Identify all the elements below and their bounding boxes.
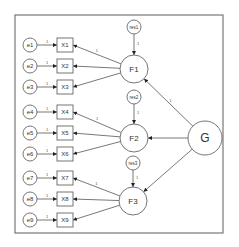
path-label: 1	[137, 110, 140, 115]
error-label: e7	[27, 175, 34, 181]
general-loading-path	[144, 149, 193, 192]
loading-path	[73, 112, 121, 133]
error-label: e1	[27, 42, 34, 48]
path-label: 1	[46, 60, 49, 65]
factor-label: F3	[128, 197, 138, 206]
path-label: 1	[46, 106, 49, 111]
path-label: 1	[137, 41, 140, 46]
error-label: e3	[27, 84, 34, 90]
error-label: e4	[27, 109, 34, 115]
factor-label: F1	[129, 65, 139, 74]
residual-label: res3	[129, 161, 138, 166]
indicator-label: X9	[61, 217, 69, 223]
error-label: e9	[27, 217, 34, 223]
path-label: 1	[46, 172, 49, 177]
loading-path	[73, 205, 120, 220]
loading-path	[73, 142, 120, 154]
indicator-label: X5	[61, 130, 69, 136]
sem-diagram: 1111111111111111 e1X1e2X2e3X3e4X4e5X5e6X…	[0, 0, 239, 247]
path-nodes: e1X1e2X2e3X3e4X4e5X5e6X6e7X7e8X8e9X9F1re…	[23, 20, 222, 227]
indicator-label: X3	[61, 84, 69, 90]
error-label: e6	[27, 151, 34, 157]
path-label: 1	[46, 193, 49, 198]
error-label: e8	[27, 196, 34, 202]
path-label: 1	[95, 181, 98, 186]
path-label: 1	[46, 214, 49, 219]
path-label: 1	[169, 98, 172, 103]
path-label: 1	[96, 116, 99, 121]
indicator-label: X2	[61, 63, 69, 69]
indicator-label: X1	[61, 42, 69, 48]
indicator-label: X4	[61, 109, 69, 115]
general-factor-label: G	[200, 131, 209, 145]
path-label: 1	[96, 48, 99, 53]
error-label: e2	[27, 63, 34, 69]
path-label: 1	[46, 39, 49, 44]
loading-path	[73, 199, 119, 201]
indicator-label: X7	[61, 175, 69, 181]
path-label: 1	[46, 127, 49, 132]
path-label: 1	[136, 175, 139, 180]
loading-path	[73, 66, 120, 68]
factor-label: F2	[129, 134, 139, 143]
indicator-label: X6	[61, 151, 69, 157]
error-label: e5	[27, 130, 34, 136]
path-label: 1	[46, 148, 49, 153]
path-label: 1	[46, 81, 49, 86]
residual-label: res2	[130, 95, 139, 100]
loading-path	[73, 133, 120, 137]
indicator-label: X8	[61, 196, 69, 202]
residual-label: res1	[130, 25, 139, 30]
loading-path	[73, 73, 121, 87]
